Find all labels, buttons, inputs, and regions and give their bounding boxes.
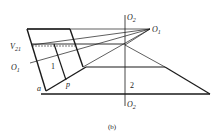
label-point-p: p [65,80,70,89]
figure-caption: (b) [108,123,117,131]
plane-mid-line [54,44,66,80]
label-v21: V21 [10,42,21,52]
label-region-2: 2 [130,81,134,90]
plane-left-edge [27,29,46,91]
perspective-diagram: O2 O2 O1 O1 V21 1 2 a p (b) [0,0,223,140]
ray-o1-to-v21 [32,29,150,45]
label-region-1: 1 [51,62,55,71]
trap-right-edge [165,67,210,94]
label-point-a: a [37,84,41,93]
apex-to-trap-right [125,45,165,67]
label-o1-right: O1 [152,25,161,35]
label-o2-top: O2 [127,13,136,23]
label-o2-bottom: O2 [127,100,136,110]
label-o1-left: O1 [11,63,20,73]
ray-o1-to-plane [83,29,150,67]
plane-right-edge [70,29,83,67]
